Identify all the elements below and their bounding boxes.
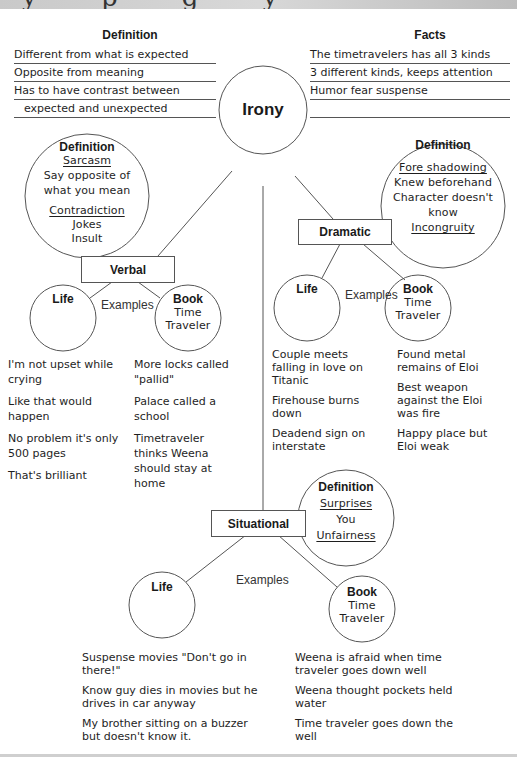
top-facts-heading: Facts xyxy=(400,28,460,42)
top-definition-line-1: Different from what is expected xyxy=(14,46,216,64)
situational-desc: You xyxy=(306,512,386,528)
verbal-book-label: Book xyxy=(158,292,218,306)
verbal-life-example: I'm not upset while crying xyxy=(8,357,123,387)
situational-book-examples: Weena is afraid when time traveler goes … xyxy=(295,651,470,750)
verbal-examples-label: Examples xyxy=(101,298,154,312)
verbal-term-contradiction-desc-2: Insult xyxy=(27,232,147,246)
dramatic-book-example: Happy place but Eloi weak xyxy=(397,427,497,453)
top-definition-line-3: Has to have contrast between xyxy=(14,82,216,100)
situational-box: Situational xyxy=(211,510,306,537)
verbal-definition: Definition Sarcasm Say opposite of what … xyxy=(27,140,147,246)
situational-book-title-2: Traveler xyxy=(332,612,392,625)
verbal-life-label: Life xyxy=(43,292,83,306)
irony-label: Irony xyxy=(223,100,303,120)
dramatic-definition-heading: Definition xyxy=(383,138,503,152)
verbal-book-example: More locks called "pallid" xyxy=(134,357,240,387)
situational-book-example: Time traveler goes down the well xyxy=(295,717,470,743)
verbal-life-examples: I'm not upset while crying Like that wou… xyxy=(8,357,123,490)
dramatic-life-example: Deadend sign on interstate xyxy=(272,427,372,453)
situational-book-title-1: Time xyxy=(332,599,392,612)
dramatic-book-title-2: Traveler xyxy=(388,309,448,322)
dramatic-desc-3: know xyxy=(383,205,503,220)
verbal-term-sarcasm: Sarcasm xyxy=(27,154,147,168)
verbal-life-example: Like that would happen xyxy=(8,394,123,424)
situational-term-unfairness: Unfairness xyxy=(306,528,386,544)
verbal-book-title-1: Time xyxy=(158,306,218,319)
dramatic-book-examples: Found metal remains of Eloi Best weapon … xyxy=(397,348,497,460)
dramatic-book: Book Time Traveler xyxy=(388,282,448,322)
top-facts-line-3: Humor fear suspense xyxy=(310,82,510,100)
verbal-term-contradiction-desc-1: Jokes xyxy=(27,218,147,232)
situational-life-label: Life xyxy=(142,580,182,594)
dramatic-desc-1: Knew beforehand xyxy=(383,175,503,190)
dramatic-life-label: Life xyxy=(287,282,327,296)
verbal-life-example: No problem it's only 500 pages xyxy=(8,431,123,461)
verbal-term-sarcasm-desc-2: what you mean xyxy=(27,183,147,198)
dramatic-book-example: Found metal remains of Eloi xyxy=(397,348,497,374)
situational-book-example: Weena thought pockets held water xyxy=(295,684,470,710)
dramatic-life-example: Firehouse burns down xyxy=(272,394,372,420)
top-facts-line-4 xyxy=(310,100,510,118)
situational-book: Book Time Traveler xyxy=(332,585,392,625)
verbal-definition-heading: Definition xyxy=(27,140,147,154)
situational-book-label: Book xyxy=(332,585,392,599)
verbal-book-example: Timetraveler thinks Weena should stay at… xyxy=(134,431,240,491)
situational-life-example: My brother sitting on a buzzer but doesn… xyxy=(82,717,262,743)
top-definition-heading: Definition xyxy=(90,28,170,42)
top-facts-line-2: 3 different kinds, keeps attention xyxy=(310,64,510,82)
dramatic-life-examples: Couple meets falling in love on Titanic … xyxy=(272,348,372,460)
dramatic-book-example: Best weapon against the Eloi was fire xyxy=(397,381,497,420)
dramatic-life-example: Couple meets falling in love on Titanic xyxy=(272,348,372,387)
dramatic-definition: Definition Fore shadowing Knew beforehan… xyxy=(383,138,503,235)
situational-definition: Definition Surprises You Unfairness xyxy=(306,480,386,544)
situational-definition-heading: Definition xyxy=(306,480,386,494)
situational-life-examples: Suspense movies "Don't go in there!" Kno… xyxy=(82,651,262,750)
top-facts-line-1: The timetravelers has all 3 kinds xyxy=(310,46,510,64)
top-definition-line-4: expected and unexpected xyxy=(14,100,216,118)
verbal-book-example: Palace called a school xyxy=(134,394,240,424)
verbal-life-example: That's brilliant xyxy=(8,468,123,483)
dramatic-term-incongruity: Incongruity xyxy=(383,220,503,235)
dramatic-book-title-1: Time xyxy=(388,296,448,309)
verbal-term-sarcasm-desc-1: Say opposite of xyxy=(27,168,147,183)
verbal-book-title-2: Traveler xyxy=(158,319,218,332)
situational-examples-label: Examples xyxy=(236,573,289,587)
top-definition-line-2: Opposite from meaning xyxy=(14,64,216,82)
dramatic-desc-2: Character doesn't xyxy=(383,190,503,205)
situational-life-example: Know guy dies in movies but he drives in… xyxy=(82,684,262,710)
verbal-book-examples: More locks called "pallid" Palace called… xyxy=(134,357,240,498)
dramatic-term-foreshadowing: Fore shadowing xyxy=(383,160,503,175)
verbal-term-contradiction: Contradiction xyxy=(27,204,147,218)
verbal-book: Book Time Traveler xyxy=(158,292,218,332)
situational-life-example: Suspense movies "Don't go in there!" xyxy=(82,651,262,677)
dramatic-book-label: Book xyxy=(388,282,448,296)
dramatic-box: Dramatic xyxy=(298,219,392,245)
situational-term-surprises: Surprises xyxy=(306,496,386,512)
verbal-box: Verbal xyxy=(81,256,175,283)
situational-book-example: Weena is afraid when time traveler goes … xyxy=(295,651,470,677)
